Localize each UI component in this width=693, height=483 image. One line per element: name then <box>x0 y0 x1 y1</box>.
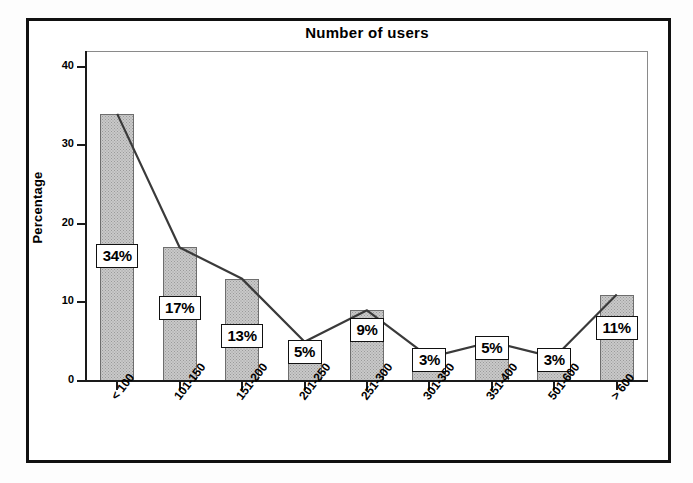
y-axis-tick-labels: 010203040 <box>44 0 74 483</box>
y-axis-tick-label: 10 <box>50 294 74 306</box>
y-axis-tick-label: 30 <box>50 137 74 149</box>
value-label-0: 34% <box>96 244 138 268</box>
chart-screenshot: Number of users Percentage 010203040 34%… <box>0 0 693 483</box>
value-label-2: 13% <box>221 324 263 348</box>
value-label-3: 5% <box>288 340 322 364</box>
y-axis-tick-label: 40 <box>50 59 74 71</box>
value-label-4: 9% <box>350 318 384 342</box>
value-label-6: 5% <box>475 336 509 360</box>
y-axis-tick-label: 0 <box>50 373 74 385</box>
y-axis-tick-label: 20 <box>50 216 74 228</box>
value-label-1: 17% <box>159 296 201 320</box>
y-axis-title: Percentage <box>30 148 45 268</box>
chart-title: Number of users <box>86 24 648 41</box>
y-axis-line <box>85 51 87 382</box>
value-label-8: 11% <box>596 316 638 340</box>
